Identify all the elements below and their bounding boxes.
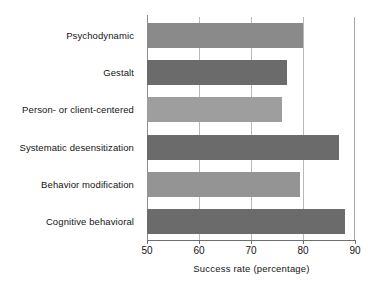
x-tick-label: 60 [186, 245, 212, 257]
gridline [303, 17, 304, 241]
plot-area [147, 17, 355, 240]
x-tick-mark [199, 240, 200, 244]
gridline [199, 17, 200, 241]
bar [147, 97, 282, 122]
category-label: Behavior modification [0, 179, 134, 190]
x-tick-label: 70 [238, 245, 264, 257]
x-tick-mark [355, 240, 356, 244]
category-label: Systematic desensitization [0, 142, 134, 153]
category-label: Person- or client-centered [0, 104, 134, 115]
bar [147, 172, 300, 197]
bar [147, 23, 303, 48]
x-tick-mark [251, 240, 252, 244]
x-tick-mark [303, 240, 304, 244]
x-tick-label: 80 [290, 245, 316, 257]
category-label: Cognitive behavioral [0, 216, 134, 227]
gridline [251, 17, 252, 241]
bar [147, 60, 287, 85]
category-label: Psychodynamic [0, 30, 134, 41]
bar-chart: Psychodynamic Gestalt Person- or client-… [0, 0, 382, 294]
category-axis-labels: Psychodynamic Gestalt Person- or client-… [0, 17, 140, 240]
category-label: Gestalt [0, 67, 134, 78]
x-tick-label: 50 [134, 245, 160, 257]
bar [147, 209, 345, 234]
x-axis-title: Success rate (percentage) [147, 263, 356, 275]
x-tick-label: 90 [342, 245, 368, 257]
gridline [354, 17, 355, 241]
x-tick-mark [147, 240, 148, 244]
bar [147, 135, 339, 160]
